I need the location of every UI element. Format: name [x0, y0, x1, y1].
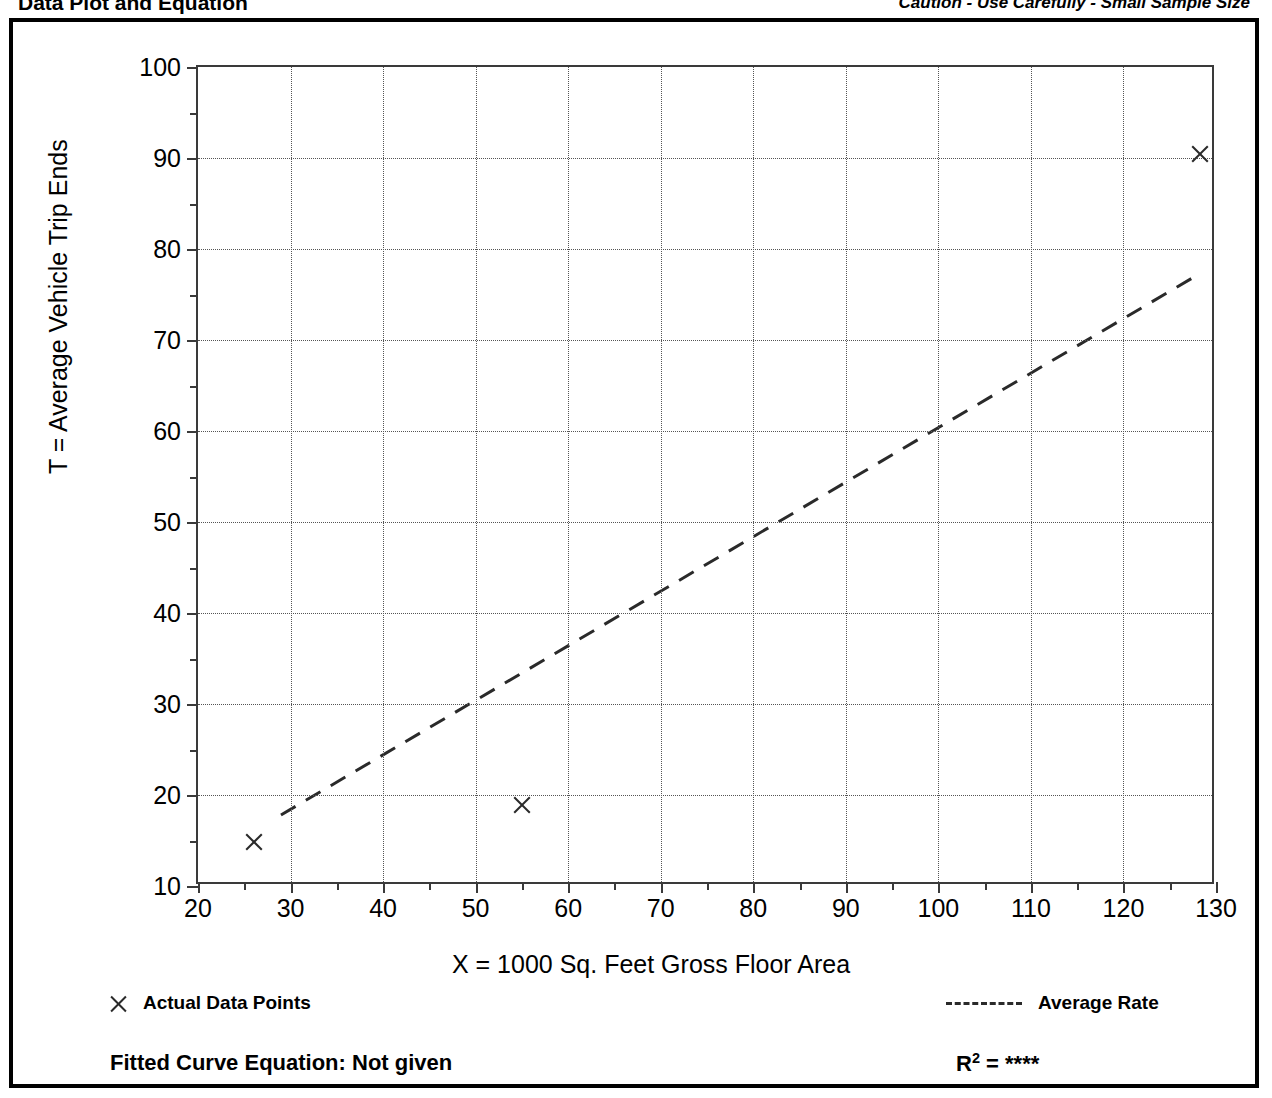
- x-axis-tick: [1216, 882, 1218, 893]
- y-axis-tick-label: 80: [153, 237, 181, 262]
- y-axis-tick: [187, 340, 198, 342]
- y-axis-minor-tick: [190, 750, 198, 752]
- x-axis-minor-tick: [800, 882, 802, 890]
- y-axis-tick-label: 90: [153, 146, 181, 171]
- x-axis-tick-label: 20: [184, 896, 212, 921]
- legend-label-data-points: Actual Data Points: [143, 992, 311, 1014]
- x-axis-tick: [938, 882, 940, 893]
- data-point-marker: [1189, 142, 1211, 164]
- x-axis-tick: [476, 882, 478, 893]
- r-squared-equals: =: [980, 1051, 1005, 1076]
- x-axis-tick-label: 70: [647, 896, 675, 921]
- y-axis-tick: [187, 886, 198, 888]
- y-axis-tick: [187, 613, 198, 615]
- chart-container: T = Average Vehicle Trip Ends 2030405060…: [0, 0, 1272, 1098]
- x-axis-tick: [1123, 882, 1125, 893]
- gridline-vertical: [846, 67, 847, 882]
- x-axis-title: X = 1000 Sq. Feet Gross Floor Area: [0, 950, 1272, 979]
- x-axis-minor-tick: [614, 882, 616, 890]
- gridline-vertical: [938, 67, 939, 882]
- y-axis-minor-tick: [190, 204, 198, 206]
- x-axis-tick: [198, 882, 200, 893]
- x-axis-tick-label: 50: [462, 896, 490, 921]
- y-axis-tick: [187, 795, 198, 797]
- y-axis-tick: [187, 158, 198, 160]
- legend-label-average-rate: Average Rate: [1038, 992, 1159, 1014]
- x-marker-icon: [108, 993, 129, 1014]
- data-point-marker: [511, 793, 533, 815]
- y-axis-tick-label: 30: [153, 692, 181, 717]
- x-axis-minor-tick: [244, 882, 246, 890]
- x-axis-title-text: X = 1000 Sq. Feet Gross Floor Area: [452, 950, 850, 979]
- gridline-horizontal: [198, 249, 1212, 250]
- x-axis-minor-tick: [522, 882, 524, 890]
- y-axis-minor-tick: [190, 386, 198, 388]
- x-axis-tick: [568, 882, 570, 893]
- x-axis-tick-label: 90: [832, 896, 860, 921]
- y-axis-minor-tick: [190, 113, 198, 115]
- r-squared-prefix: R: [956, 1051, 972, 1076]
- x-axis-tick-label: 110: [1011, 896, 1051, 921]
- y-axis-tick-label: 70: [153, 328, 181, 353]
- x-axis-tick-label: 130: [1195, 896, 1237, 921]
- r-squared-exponent: 2: [972, 1050, 980, 1066]
- gridline-horizontal: [198, 704, 1212, 705]
- gridline-vertical: [1031, 67, 1032, 882]
- x-axis-minor-tick: [1077, 882, 1079, 890]
- x-axis-tick: [753, 882, 755, 893]
- x-axis-minor-tick: [892, 882, 894, 890]
- data-point-marker: [243, 830, 265, 852]
- x-axis-minor-tick: [985, 882, 987, 890]
- gridline-horizontal: [198, 340, 1212, 341]
- x-axis-tick: [661, 882, 663, 893]
- y-axis-tick-label: 60: [153, 419, 181, 444]
- gridline-vertical: [568, 67, 569, 882]
- r-squared-stars: ****: [1005, 1051, 1039, 1076]
- y-axis-tick: [187, 522, 198, 524]
- y-axis-tick-label: 20: [153, 783, 181, 808]
- y-axis-minor-tick: [190, 295, 198, 297]
- x-axis-minor-tick: [1170, 882, 1172, 890]
- y-axis-tick-label: 10: [153, 874, 181, 899]
- gridline-vertical: [291, 67, 292, 882]
- gridline-vertical: [753, 67, 754, 882]
- gridline-horizontal: [198, 613, 1212, 614]
- gridline-horizontal: [198, 158, 1212, 159]
- x-axis-tick-label: 100: [918, 896, 960, 921]
- y-axis-tick-label: 100: [139, 55, 181, 80]
- average-rate-line: [198, 67, 1212, 882]
- x-axis-tick: [846, 882, 848, 893]
- y-axis-tick-label: 40: [153, 601, 181, 626]
- y-axis-tick: [187, 67, 198, 69]
- y-axis-tick: [187, 704, 198, 706]
- x-axis-minor-tick: [429, 882, 431, 890]
- x-axis-tick: [383, 882, 385, 893]
- dashed-line-icon: [946, 1002, 1022, 1005]
- y-axis-title: T = Average Vehicle Trip Ends: [44, 139, 73, 474]
- x-axis-tick-label: 120: [1103, 896, 1145, 921]
- x-axis-tick: [291, 882, 293, 893]
- x-axis-minor-tick: [707, 882, 709, 890]
- r-squared-value: R2 = ****: [956, 1050, 1039, 1077]
- y-axis-minor-tick: [190, 568, 198, 570]
- y-axis-tick-label: 50: [153, 510, 181, 535]
- gridline-vertical: [383, 67, 384, 882]
- gridline-horizontal: [198, 795, 1212, 796]
- gridline-horizontal: [198, 522, 1212, 523]
- x-axis-tick-label: 80: [739, 896, 767, 921]
- x-axis-tick-label: 60: [554, 896, 582, 921]
- x-axis-tick-label: 30: [277, 896, 305, 921]
- y-axis-minor-tick: [190, 477, 198, 479]
- x-axis-tick: [1031, 882, 1033, 893]
- gridline-vertical: [1123, 67, 1124, 882]
- legend-actual-data-points: Actual Data Points: [108, 992, 311, 1014]
- y-axis-minor-tick: [190, 659, 198, 661]
- y-axis-minor-tick: [190, 841, 198, 843]
- fitted-curve-equation: Fitted Curve Equation: Not given: [110, 1050, 452, 1076]
- x-axis-tick-label: 40: [369, 896, 397, 921]
- x-axis-minor-tick: [337, 882, 339, 890]
- gridline-vertical: [476, 67, 477, 882]
- y-axis-tick: [187, 249, 198, 251]
- gridline-horizontal: [198, 431, 1212, 432]
- gridline-vertical: [661, 67, 662, 882]
